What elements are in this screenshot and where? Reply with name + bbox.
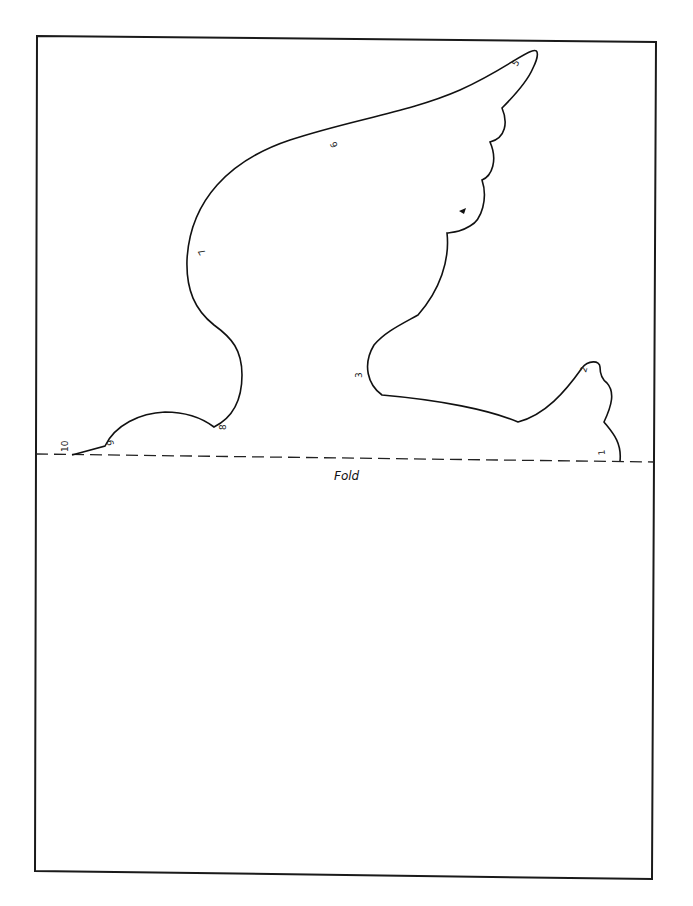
arrow-mark [459, 208, 466, 214]
point-label-9: 9 [105, 439, 116, 447]
point-label-3: 3 [354, 372, 364, 378]
point-label-10: 10 [60, 440, 70, 452]
pattern-sheet: 1 2 3 5 6 7 8 9 10 Fold [0, 0, 693, 906]
point-label-1: 1 [597, 449, 607, 456]
point-label-6: 6 [328, 140, 340, 150]
point-label-2: 2 [578, 365, 589, 373]
fold-label: Fold [334, 469, 360, 483]
fold-line [36, 454, 654, 462]
point-label-8: 8 [218, 424, 228, 430]
point-label-7: 7 [196, 247, 208, 257]
bird-outline [72, 50, 620, 461]
